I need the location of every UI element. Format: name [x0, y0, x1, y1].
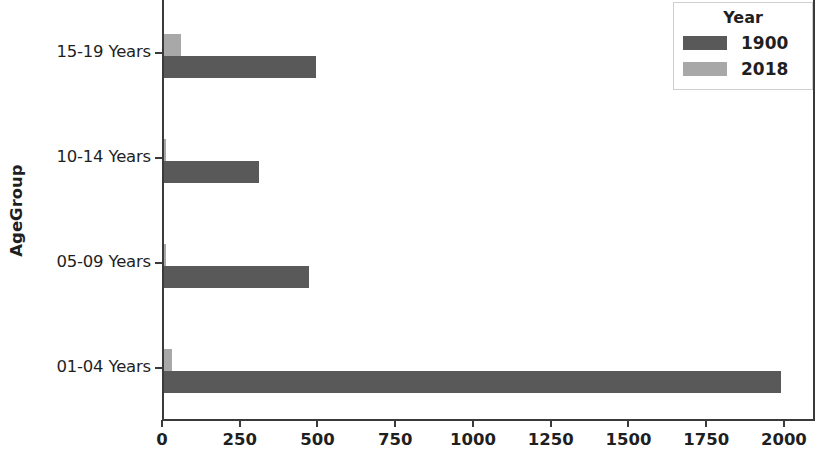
x-axis-tick-label: 750 — [378, 430, 412, 449]
y-axis-tick-mark — [155, 157, 162, 159]
x-axis-tick-mark — [394, 420, 396, 427]
bar-2018-05-09-years — [164, 244, 166, 266]
legend: Year 19002018 — [673, 2, 813, 90]
x-axis-tick-label: 1750 — [683, 430, 729, 449]
x-axis-tick-label: 500 — [300, 430, 334, 449]
bar-2018-01-04-years — [164, 349, 172, 371]
x-axis-tick-mark — [550, 420, 552, 427]
x-axis-tick-label: 1250 — [528, 430, 574, 449]
legend-swatch-2018 — [683, 62, 727, 76]
x-axis-tick-label: 0 — [156, 430, 167, 449]
x-axis-tick-mark — [627, 420, 629, 427]
x-axis-tick-label: 2000 — [761, 430, 807, 449]
x-axis-tick-label: 1000 — [450, 430, 496, 449]
bar-1900-10-14-years — [164, 161, 259, 183]
y-axis-tick-mark — [155, 262, 162, 264]
legend-entries: 19002018 — [683, 30, 803, 82]
legend-entry-2018: 2018 — [683, 56, 803, 82]
y-axis-tick-label: 05-09 Years — [0, 252, 151, 271]
bar-1900-05-09-years — [164, 266, 309, 288]
legend-label-1900: 1900 — [741, 33, 788, 53]
x-axis-tick-label: 1500 — [605, 430, 651, 449]
chart-figure: AgeGroup 15-19 Years10-14 Years05-09 Yea… — [0, 0, 823, 466]
legend-swatch-1900 — [683, 36, 727, 50]
bar-2018-15-19-years — [164, 34, 181, 56]
y-axis-tick-mark — [155, 367, 162, 369]
x-axis-tick-mark — [161, 420, 163, 427]
y-axis-tick-mark — [155, 52, 162, 54]
bar-1900-01-04-years — [164, 371, 781, 393]
x-axis-tick-mark — [239, 420, 241, 427]
bar-1900-15-19-years — [164, 56, 316, 78]
bar-2018-10-14-years — [164, 139, 166, 161]
y-axis-tick-label: 01-04 Years — [0, 357, 151, 376]
x-axis-tick-mark — [705, 420, 707, 427]
y-axis-tick-label: 10-14 Years — [0, 147, 151, 166]
legend-title: Year — [683, 8, 803, 27]
x-axis-tick-label: 250 — [223, 430, 257, 449]
x-axis-tick-mark — [472, 420, 474, 427]
legend-label-2018: 2018 — [741, 59, 788, 79]
x-axis-tick-mark — [316, 420, 318, 427]
legend-entry-1900: 1900 — [683, 30, 803, 56]
y-axis-tick-label: 15-19 Years — [0, 42, 151, 61]
x-axis-tick-mark — [783, 420, 785, 427]
